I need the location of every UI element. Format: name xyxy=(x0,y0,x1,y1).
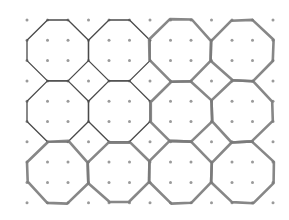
grid-dot xyxy=(87,79,90,82)
grid-dot xyxy=(128,161,131,164)
grid-dot xyxy=(210,140,213,143)
grid-dot xyxy=(67,161,70,164)
octagon-shape xyxy=(151,81,212,141)
grid-dot xyxy=(108,120,111,123)
grid-dot xyxy=(210,19,213,22)
grid-dot xyxy=(190,39,193,42)
grid-dot xyxy=(46,100,49,103)
grid-dot xyxy=(128,39,131,42)
grid-dot xyxy=(251,120,254,123)
grid-dot xyxy=(190,100,193,103)
grid-dot xyxy=(108,181,111,184)
octagon-shapes xyxy=(27,19,274,204)
grid-dot xyxy=(251,181,254,184)
grid-dot xyxy=(87,140,90,143)
grid-dot xyxy=(87,201,90,204)
grid-dot xyxy=(67,59,70,62)
octagon-shape xyxy=(211,20,274,81)
grid-dot xyxy=(231,59,234,62)
grid-dot xyxy=(108,59,111,62)
grid-dot xyxy=(46,59,49,62)
octagon-shape xyxy=(88,142,150,202)
octagon-shape xyxy=(27,81,89,142)
grid-dot xyxy=(26,140,29,143)
grid-dot xyxy=(169,120,172,123)
grid-dot xyxy=(169,39,172,42)
grid-dot xyxy=(169,181,172,184)
grid-dot xyxy=(190,161,193,164)
grid-dot xyxy=(128,59,131,62)
octagon-tiling-diagram xyxy=(0,0,289,220)
octagon-shape xyxy=(149,19,211,82)
octagon-shape xyxy=(149,141,212,204)
grid-dot xyxy=(108,39,111,42)
grid-dot xyxy=(149,201,152,204)
grid-dot xyxy=(108,161,111,164)
grid-dot xyxy=(26,79,29,82)
grid-dot xyxy=(169,161,172,164)
octagon-shape xyxy=(27,20,89,81)
grid-dot xyxy=(87,19,90,22)
grid-dot xyxy=(128,181,131,184)
grid-dot xyxy=(67,100,70,103)
grid-dot xyxy=(231,100,234,103)
grid-dot xyxy=(149,140,152,143)
grid-dot xyxy=(67,39,70,42)
grid-dot xyxy=(190,181,193,184)
grid-dot xyxy=(210,201,213,204)
grid-dot xyxy=(46,39,49,42)
grid-dot xyxy=(169,59,172,62)
grid-dot xyxy=(231,120,234,123)
grid-dot xyxy=(272,201,275,204)
grid-dot xyxy=(272,19,275,22)
grid-dot xyxy=(46,120,49,123)
grid-dot xyxy=(149,79,152,82)
grid-dot xyxy=(108,100,111,103)
grid-dot xyxy=(26,201,29,204)
grid-dot xyxy=(272,140,275,143)
grid-dot xyxy=(67,181,70,184)
grid-dot xyxy=(251,161,254,164)
grid-dot xyxy=(231,39,234,42)
grid-dot xyxy=(169,100,172,103)
grid-dot xyxy=(46,161,49,164)
grid-dot xyxy=(128,100,131,103)
grid-dot xyxy=(231,161,234,164)
octagon-shape xyxy=(27,141,88,204)
grid-dot xyxy=(128,120,131,123)
grid-dot xyxy=(190,120,193,123)
grid-dot xyxy=(210,79,213,82)
octagon-shape xyxy=(211,141,274,203)
grid-dot xyxy=(67,120,70,123)
grid-dot xyxy=(26,19,29,22)
octagon-shape xyxy=(212,80,273,142)
octagon-shape xyxy=(89,81,151,142)
grid-dot xyxy=(46,181,49,184)
grid-dot xyxy=(149,19,152,22)
grid-dot xyxy=(272,79,275,82)
grid-dot xyxy=(251,39,254,42)
grid-dot xyxy=(251,59,254,62)
grid-dot xyxy=(251,100,254,103)
grid-dot xyxy=(190,59,193,62)
grid-dot xyxy=(231,181,234,184)
octagon-shape xyxy=(89,20,151,81)
